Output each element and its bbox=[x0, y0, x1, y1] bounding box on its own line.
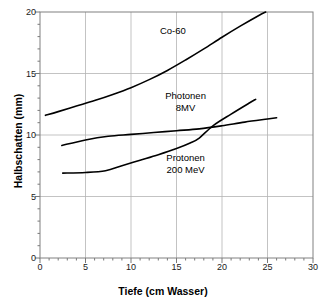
x-axis-title: Tiefe (cm Wasser) bbox=[0, 285, 326, 297]
series-line-1 bbox=[62, 118, 277, 146]
x-tick-0: 0 bbox=[37, 262, 42, 272]
series-label-protonen-200-mev: Protonen 200 MeV bbox=[156, 152, 216, 176]
y-tick-0: 0 bbox=[16, 253, 36, 263]
grid-lines bbox=[40, 12, 313, 258]
x-tick-25: 25 bbox=[262, 262, 272, 272]
series-label-co-60: Co-60 bbox=[143, 25, 203, 37]
y-tick-20: 20 bbox=[16, 7, 36, 17]
chart-container: 051015202530 05101520 Tiefe (cm Wasser) … bbox=[0, 0, 326, 307]
x-tick-15: 15 bbox=[171, 262, 181, 272]
x-tick-5: 5 bbox=[83, 262, 88, 272]
x-tick-30: 30 bbox=[308, 262, 318, 272]
x-tick-10: 10 bbox=[126, 262, 136, 272]
series-label-photonen-8mv: Photonen 8MV bbox=[156, 90, 216, 114]
axis-ticks bbox=[35, 12, 313, 263]
y-axis-title: Halbschatten (mm) bbox=[12, 61, 24, 221]
x-tick-20: 20 bbox=[217, 262, 227, 272]
